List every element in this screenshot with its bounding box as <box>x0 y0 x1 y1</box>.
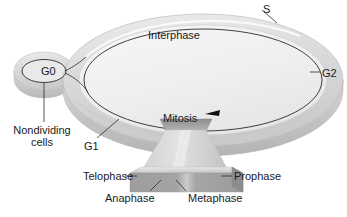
label-nondividing-cells: Nondividing cells <box>6 124 78 149</box>
disc-inner-face <box>79 25 327 135</box>
label-mitosis: Mitosis <box>163 112 197 124</box>
label-telophase: Telophase <box>83 170 133 182</box>
label-nondividing-line1: Nondividing <box>6 124 78 136</box>
label-prophase: Prophase <box>234 170 281 182</box>
base-top-face <box>130 167 243 173</box>
label-g0-phase: G0 <box>41 65 56 77</box>
label-g1-phase: G1 <box>84 140 99 152</box>
label-anaphase: Anaphase <box>105 192 155 204</box>
label-interphase: Interphase <box>148 29 200 41</box>
label-metaphase: Metaphase <box>188 192 242 204</box>
label-g2-phase: G2 <box>322 67 337 79</box>
label-nondividing-line2: cells <box>6 136 78 148</box>
mitosis-base-block <box>130 167 243 192</box>
cell-cycle-figure: Interphase S G2 G0 G1 Nondividing cells … <box>0 0 347 217</box>
label-s-phase: S <box>263 3 270 15</box>
